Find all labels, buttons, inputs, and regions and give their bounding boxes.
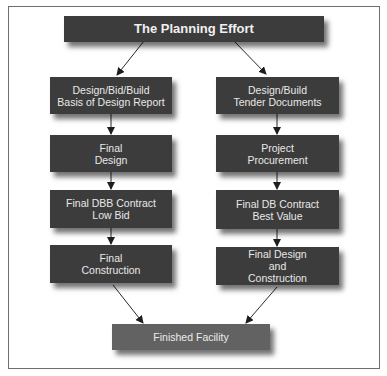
final-db-contract-box: Final DB Contract Best Value [216,190,339,229]
step-label: Design/Build Tender Documents [233,84,321,108]
step-label: Design/Bid/Build Basis of Design Report [57,84,164,108]
final-construction-box: Final Construction [50,245,172,283]
db-tender-documents-box: Design/Build Tender Documents [216,77,339,114]
result-label: Finished Facility [153,331,228,343]
final-design-box: Final Design [50,135,172,172]
final-design-and-construction-box: Final Design and Construction [216,247,339,285]
step-label: Final DB Contract Best Value [236,198,319,222]
title-box: The Planning Effort [64,16,324,42]
dbb-basis-of-design-box: Design/Bid/Build Basis of Design Report [50,77,172,114]
step-label: Final Design and Construction [248,248,307,284]
finished-facility-box: Finished Facility [112,324,270,350]
title-text: The Planning Effort [134,23,254,35]
step-label: Final Construction [82,252,141,276]
step-label: Final Design [95,142,128,166]
step-label: Final DBB Contract Low Bid [66,197,156,221]
final-dbb-contract-box: Final DBB Contract Low Bid [50,190,172,228]
project-procurement-box: Project Procurement [216,135,339,172]
step-label: Project Procurement [247,142,307,166]
diagram-frame [8,6,380,369]
